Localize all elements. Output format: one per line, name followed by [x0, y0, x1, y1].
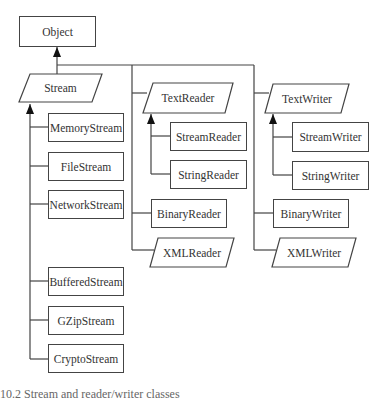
streamwriter-node: StreamWriter: [292, 122, 369, 152]
xmlwriter-label: XMLWriter: [287, 247, 341, 259]
stream-label: Stream: [44, 82, 77, 94]
binaryreader-label: BinaryReader: [157, 208, 221, 220]
bufferedstream-node: BufferedStream: [48, 267, 124, 296]
textwriter-node: TextWriter: [265, 84, 349, 113]
filestream-node: FileStream: [48, 152, 124, 181]
gzipstream-label: GZipStream: [58, 315, 115, 327]
streamwriter-label: StreamWriter: [299, 131, 361, 143]
binaryreader-node: BinaryReader: [151, 199, 227, 228]
stringreader-label: StringReader: [178, 169, 239, 181]
textreader-label: TextReader: [162, 92, 215, 104]
stream-node: Stream: [19, 74, 102, 102]
textreader-node: TextReader: [143, 83, 233, 113]
streamreader-node: StreamReader: [170, 122, 247, 151]
memorystream-node: MemoryStream: [48, 113, 124, 142]
xmlreader-label: XMLReader: [163, 247, 221, 259]
stringreader-node: StringReader: [170, 160, 247, 189]
figure-caption: 10.2 Stream and reader/writer classes: [0, 387, 180, 402]
stringwriter-node: StringWriter: [292, 161, 369, 190]
stringwriter-label: StringWriter: [302, 170, 360, 182]
gzipstream-node: GZipStream: [48, 306, 124, 335]
filestream-label: FileStream: [61, 161, 111, 173]
object-label: Object: [42, 26, 73, 38]
binarywriter-label: BinaryWriter: [281, 208, 342, 220]
textwriter-label: TextWriter: [282, 93, 332, 105]
memorystream-label: MemoryStream: [50, 122, 122, 134]
cryptostream-label: CryptoStream: [54, 353, 119, 365]
streamreader-label: StreamReader: [176, 131, 241, 143]
cryptostream-node: CryptoStream: [48, 344, 124, 373]
xmlreader-node: XMLReader: [150, 238, 234, 267]
xmlwriter-node: XMLWriter: [272, 238, 356, 267]
binarywriter-node: BinaryWriter: [273, 199, 349, 228]
object-node: Object: [19, 16, 96, 47]
bufferedstream-label: BufferedStream: [49, 276, 122, 288]
networkstream-label: NetworkStream: [50, 199, 123, 211]
networkstream-node: NetworkStream: [48, 190, 124, 219]
